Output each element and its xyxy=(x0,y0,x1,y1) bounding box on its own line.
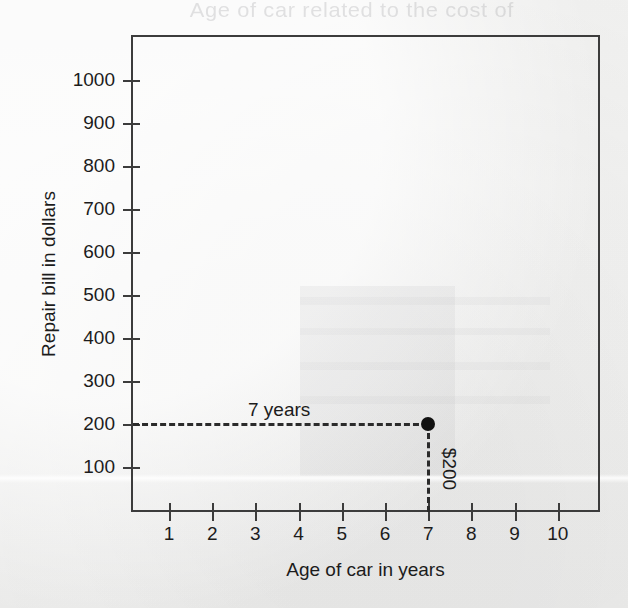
x-tick-label-8: 8 xyxy=(451,524,491,543)
y-tick-label-800: 800 xyxy=(51,156,115,175)
x-tick-8 xyxy=(471,503,473,521)
x-tick-4 xyxy=(299,503,301,521)
x-tick-10 xyxy=(558,503,560,521)
x-tick-label-9: 9 xyxy=(495,524,535,543)
x-tick-5 xyxy=(342,503,344,521)
x-tick-3 xyxy=(255,503,257,521)
x-tick-9 xyxy=(515,503,517,521)
scatter-chart: 1000900800700600500400300200100 12345678… xyxy=(0,0,628,608)
y-tick-400 xyxy=(123,338,140,340)
y-tick-500 xyxy=(123,295,140,297)
x-tick-label-5: 5 xyxy=(322,524,362,543)
y-tick-label-600: 600 xyxy=(51,242,115,261)
y-tick-700 xyxy=(123,209,140,211)
y-tick-100 xyxy=(123,467,140,469)
x-tick-label-2: 2 xyxy=(192,524,232,543)
vertical-guide-line xyxy=(427,424,430,512)
x-tick-1 xyxy=(169,503,171,521)
y-tick-600 xyxy=(123,252,140,254)
x-tick-label-1: 1 xyxy=(149,524,189,543)
y-axis-title: Repair bill in dollars xyxy=(39,191,58,357)
y-tick-label-1000: 1000 xyxy=(51,70,115,89)
y-tick-label-400: 400 xyxy=(51,328,115,347)
x-tick-label-6: 6 xyxy=(365,524,405,543)
y-tick-label-200: 200 xyxy=(51,414,115,433)
x-tick-2 xyxy=(212,503,214,521)
y-tick-label-100: 100 xyxy=(51,457,115,476)
y-tick-label-900: 900 xyxy=(51,113,115,132)
y-tick-900 xyxy=(123,123,140,125)
x-axis-title: Age of car in years xyxy=(131,560,600,579)
annotation-years-label: 7 years xyxy=(248,400,310,419)
y-tick-label-500: 500 xyxy=(51,285,115,304)
horizontal-guide-line xyxy=(133,423,428,426)
x-tick-label-10: 10 xyxy=(538,524,578,543)
y-tick-label-700: 700 xyxy=(51,199,115,218)
y-tick-300 xyxy=(123,381,140,383)
y-tick-label-300: 300 xyxy=(51,371,115,390)
plot-frame xyxy=(131,35,600,512)
annotation-amount-label: $200 xyxy=(440,448,459,490)
x-tick-label-7: 7 xyxy=(408,524,448,543)
x-tick-6 xyxy=(385,503,387,521)
y-tick-800 xyxy=(123,166,140,168)
x-tick-label-3: 3 xyxy=(235,524,275,543)
y-tick-1000 xyxy=(123,80,140,82)
x-tick-label-4: 4 xyxy=(279,524,319,543)
